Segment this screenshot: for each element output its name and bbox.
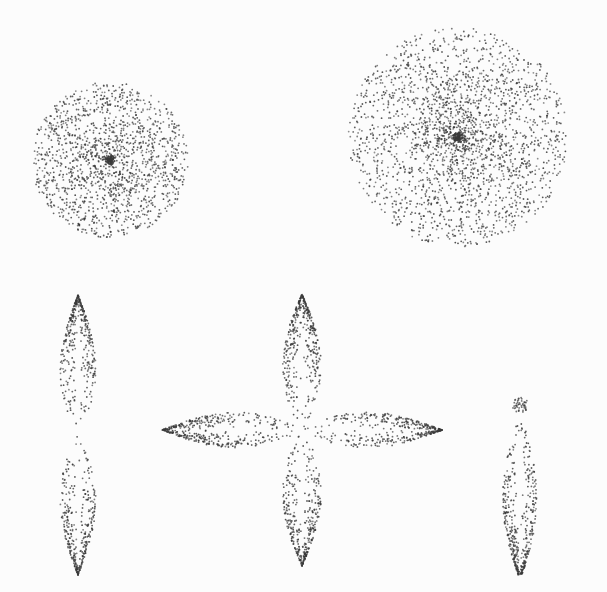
orbital-stipple-canvas [0, 0, 607, 592]
s-orbital-small [33, 83, 188, 239]
d-orbital-lobes-vertical [282, 294, 322, 567]
p-orbital-vertical [59, 294, 96, 576]
s-orbital-large [348, 28, 567, 248]
p-orbital-asymmetric [502, 397, 537, 576]
d-orbital-lobes-horizontal [161, 412, 442, 449]
